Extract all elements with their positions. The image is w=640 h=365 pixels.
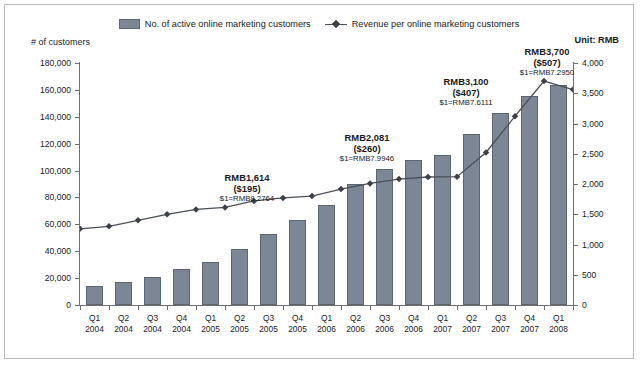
right-tick-label: 2,500 bbox=[582, 149, 604, 159]
x-tick-mark bbox=[254, 305, 255, 310]
line-marker bbox=[106, 223, 113, 230]
right-tick-mark bbox=[573, 154, 578, 155]
left-tick-label: 180,000 bbox=[13, 58, 71, 68]
annotation-fx: $1=RMB7.2950 bbox=[497, 68, 597, 79]
line-marker bbox=[309, 193, 316, 200]
x-tick-mark bbox=[486, 305, 487, 310]
right-tick-label: 500 bbox=[582, 270, 596, 280]
x-tick-mark bbox=[515, 305, 516, 310]
x-tick-mark bbox=[428, 305, 429, 310]
line-marker bbox=[367, 180, 374, 187]
right-tick-mark bbox=[573, 275, 578, 276]
left-tick-label: 40,000 bbox=[13, 246, 71, 256]
annotation-fx: $1=RMB8.2764 bbox=[197, 194, 297, 205]
line-marker bbox=[222, 204, 229, 211]
x-tick-mark bbox=[109, 305, 110, 310]
right-axis-caption: Unit: RMB bbox=[575, 35, 619, 45]
x-tick-mark bbox=[196, 305, 197, 310]
legend-bar-label: No. of active online marketing customers bbox=[145, 19, 311, 29]
x-axis-line bbox=[79, 305, 574, 306]
annotation-rmb: RMB2,081 bbox=[317, 133, 417, 144]
x-tick-mark bbox=[283, 305, 284, 310]
annotation: RMB3,100($407)$1=RMB7.6111 bbox=[416, 77, 516, 109]
x-axis-label: Q12008 bbox=[539, 313, 579, 335]
left-tick-label: 60,000 bbox=[13, 219, 71, 229]
x-tick-mark bbox=[457, 305, 458, 310]
annotation-rmb: RMB1,614 bbox=[197, 173, 297, 184]
left-tick-label: 20,000 bbox=[13, 273, 71, 283]
right-tick-label: 3,000 bbox=[582, 119, 604, 129]
annotation-rmb: RMB3,100 bbox=[416, 77, 516, 88]
x-tick-mark bbox=[573, 305, 574, 310]
legend-item-line: Revenue per online marketing customers bbox=[325, 19, 520, 29]
left-tick-label: 140,000 bbox=[13, 112, 71, 122]
line-marker bbox=[425, 174, 432, 181]
annotation-fx: $1=RMB7.6111 bbox=[416, 98, 516, 109]
annotation: RMB2,081($260)$1=RMB7.9946 bbox=[317, 133, 417, 165]
annotation-rmb: RMB3,700 bbox=[497, 47, 597, 58]
line-marker bbox=[570, 86, 573, 93]
x-tick-mark bbox=[167, 305, 168, 310]
left-tick-label: 100,000 bbox=[13, 166, 71, 176]
x-tick-mark bbox=[341, 305, 342, 310]
x-tick-mark bbox=[138, 305, 139, 310]
x-tick-mark bbox=[370, 305, 371, 310]
line-marker bbox=[396, 176, 403, 183]
right-tick-mark bbox=[573, 245, 578, 246]
right-tick-label: 1,000 bbox=[582, 240, 604, 250]
chart-frame: No. of active online marketing customers… bbox=[4, 4, 634, 359]
annotation-usd: ($195) bbox=[197, 184, 297, 195]
line-marker bbox=[193, 206, 200, 213]
right-tick-label: 2,000 bbox=[582, 179, 604, 189]
right-tick-label: 3,500 bbox=[582, 88, 604, 98]
annotation-usd: ($507) bbox=[497, 58, 597, 69]
legend-line-label: Revenue per online marketing customers bbox=[352, 19, 520, 29]
annotation: RMB3,700($507)$1=RMB7.2950 bbox=[497, 47, 597, 79]
annotation-usd: ($407) bbox=[416, 88, 516, 99]
right-tick-mark bbox=[573, 93, 578, 94]
x-tick-mark bbox=[225, 305, 226, 310]
right-tick-mark bbox=[573, 124, 578, 125]
line-marker bbox=[164, 211, 171, 218]
right-tick-label: 1,500 bbox=[582, 209, 604, 219]
left-tick-label: 0 bbox=[13, 300, 71, 310]
line-marker bbox=[135, 217, 142, 224]
annotation-fx: $1=RMB7.9946 bbox=[317, 154, 417, 165]
x-tick-mark bbox=[399, 305, 400, 310]
x-tick-mark bbox=[80, 305, 81, 310]
x-tick-mark bbox=[544, 305, 545, 310]
legend-bar-swatch bbox=[119, 19, 140, 29]
right-tick-mark bbox=[573, 184, 578, 185]
line-marker bbox=[80, 226, 83, 233]
left-tick-label: 80,000 bbox=[13, 192, 71, 202]
line-marker bbox=[338, 186, 345, 193]
right-tick-label: 0 bbox=[582, 300, 587, 310]
chart-legend: No. of active online marketing customers… bbox=[5, 19, 633, 29]
annotation-usd: ($260) bbox=[317, 144, 417, 155]
left-tick-label: 120,000 bbox=[13, 139, 71, 149]
left-axis-caption: # of customers bbox=[31, 37, 90, 47]
legend-line-marker-icon bbox=[325, 20, 347, 29]
x-tick-mark bbox=[312, 305, 313, 310]
left-tick-label: 160,000 bbox=[13, 85, 71, 95]
annotation: RMB1,614($195)$1=RMB8.2764 bbox=[197, 173, 297, 205]
legend-item-bars: No. of active online marketing customers bbox=[119, 19, 311, 29]
right-tick-mark bbox=[573, 214, 578, 215]
